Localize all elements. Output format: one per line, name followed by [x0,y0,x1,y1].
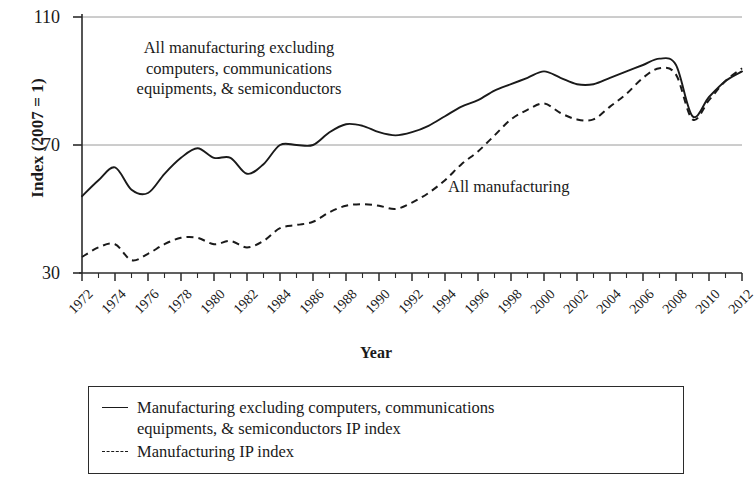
x-axis-title: Year [0,344,752,362]
y-tick-label-110: 110 [16,8,60,26]
legend-item-manufacturing-excluding: Manufacturing excluding computers, commu… [101,397,681,439]
solid-line-icon [101,397,131,417]
dashed-line-icon [101,441,131,461]
x-axis-ticks [82,273,742,281]
y-tick-label-70: 70 [16,136,60,154]
annotation-manufacturing-excluding: All manufacturing excluding computers, c… [94,38,384,100]
legend-item-all-manufacturing: Manufacturing IP index [101,441,681,462]
annotation-all-manufacturing: All manufacturing [448,177,648,198]
y-tick-label-30: 30 [16,264,60,282]
legend-label-all-manufacturing: Manufacturing IP index [137,441,294,462]
legend-label-manufacturing-excluding: Manufacturing excluding computers, commu… [137,397,494,439]
legend-box: Manufacturing excluding computers, commu… [88,386,684,474]
